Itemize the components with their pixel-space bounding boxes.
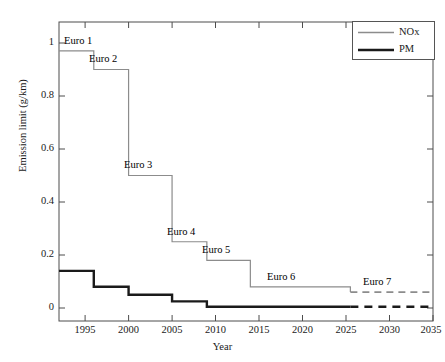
legend-swatch-nox bbox=[358, 31, 394, 34]
x-tick-label-2015: 2015 bbox=[239, 324, 279, 335]
x-tick-label-2035: 2035 bbox=[411, 324, 445, 335]
annotation-euro-4: Euro 4 bbox=[167, 226, 195, 237]
y-tick-label-0-2: 0.2 bbox=[20, 248, 54, 259]
x-tick-label-2030: 2030 bbox=[370, 324, 410, 335]
legend-entry-pm: PM bbox=[358, 41, 430, 57]
legend-label-pm: PM bbox=[399, 41, 414, 57]
legend-label-nox: NOx bbox=[399, 24, 419, 40]
annotation-euro-7: Euro 7 bbox=[363, 276, 391, 287]
nox-series-line bbox=[59, 51, 350, 292]
annotation-euro-6: Euro 6 bbox=[267, 271, 295, 282]
x-tick-label-2000: 2000 bbox=[109, 324, 149, 335]
pm-series-line bbox=[59, 271, 350, 307]
y-tick-label-0-4: 0.4 bbox=[20, 195, 54, 206]
x-tick-label-2010: 2010 bbox=[196, 324, 236, 335]
legend-entry-nox: NOx bbox=[358, 24, 430, 40]
y-axis-ticks bbox=[59, 43, 433, 308]
annotation-euro-3: Euro 3 bbox=[124, 159, 152, 170]
annotation-euro-5: Euro 5 bbox=[202, 244, 230, 255]
annotation-euro-1: Euro 1 bbox=[64, 35, 92, 46]
y-tick-label-1: 1 bbox=[28, 36, 54, 47]
emission-limit-chart: 0 0.2 0.4 0.6 0.8 1 1995 2000 2005 2010 … bbox=[0, 0, 445, 362]
annotation-euro-2: Euro 2 bbox=[89, 53, 117, 64]
y-tick-label-0: 0 bbox=[28, 301, 54, 312]
x-axis-title: Year bbox=[0, 341, 445, 352]
legend-swatch-pm bbox=[358, 48, 394, 52]
chart-legend: NOx PM bbox=[352, 21, 435, 60]
x-tick-label-2025: 2025 bbox=[326, 324, 366, 335]
y-axis-title: Emission limit (g/km) bbox=[17, 66, 28, 186]
x-tick-label-1995: 1995 bbox=[65, 324, 105, 335]
x-tick-label-2005: 2005 bbox=[152, 324, 192, 335]
x-tick-label-2020: 2020 bbox=[283, 324, 323, 335]
